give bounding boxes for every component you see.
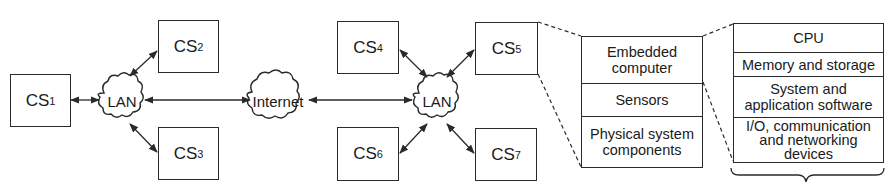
cs6-box: CS6 (337, 127, 399, 181)
cs3-label: CS (174, 144, 198, 164)
embedded-system-stack: Embedded computer Sensors Physical syste… (581, 36, 703, 168)
cs1-subscript: 1 (49, 95, 55, 107)
sensors-cell: Sensors (582, 83, 702, 116)
cs7-subscript: 7 (515, 149, 521, 161)
cs2-subscript: 2 (197, 41, 203, 53)
cpu-cell: CPU (734, 24, 883, 52)
cs2-label: CS (174, 37, 198, 57)
cs3-box: CS3 (158, 127, 219, 180)
lan-right-label: LAN (422, 93, 451, 110)
cs1-box: CS1 (10, 74, 71, 127)
physical-components-cell: Physical system components (582, 116, 702, 167)
lan-left-label: LAN (107, 93, 136, 110)
embedded-to-computer-bottom (703, 82, 733, 161)
embedded-computer-cell: Embedded computer (582, 37, 702, 83)
cs4-lan-link (400, 50, 427, 77)
cs6-label: CS (353, 144, 377, 164)
cs5-to-stack-top (538, 22, 581, 36)
brace-icon (731, 168, 884, 182)
cs5-to-stack-bottom (538, 74, 581, 167)
cs7-label: CS (491, 145, 515, 165)
cs1-label: CS (26, 91, 50, 111)
cs3-lan-link (130, 124, 157, 152)
cs7-box: CS7 (475, 128, 537, 181)
embedded-to-computer-top (703, 24, 733, 36)
computer-components-stack: CPU Memory and storage System and applic… (733, 23, 884, 163)
io-networking-cell: I/O, communication and networking device… (734, 117, 883, 162)
cs5-label: CS (492, 39, 516, 59)
internet-label: Internet (253, 93, 304, 110)
cs6-lan-link (400, 124, 427, 153)
cs4-subscript: 4 (377, 42, 383, 54)
cs3-subscript: 3 (197, 148, 203, 160)
cs4-box: CS4 (337, 21, 399, 74)
cs2-lan-link (130, 51, 157, 76)
cs4-label: CS (353, 38, 377, 58)
cs7-lan-link (447, 124, 474, 153)
cs5-lan-link (447, 50, 474, 77)
cs6-subscript: 6 (377, 148, 383, 160)
memory-storage-cell: Memory and storage (734, 52, 883, 76)
cs2-box: CS2 (158, 20, 219, 73)
cs5-subscript: 5 (515, 43, 521, 55)
cs5-box: CS5 (475, 22, 538, 75)
software-cell: System and application software (734, 76, 883, 117)
